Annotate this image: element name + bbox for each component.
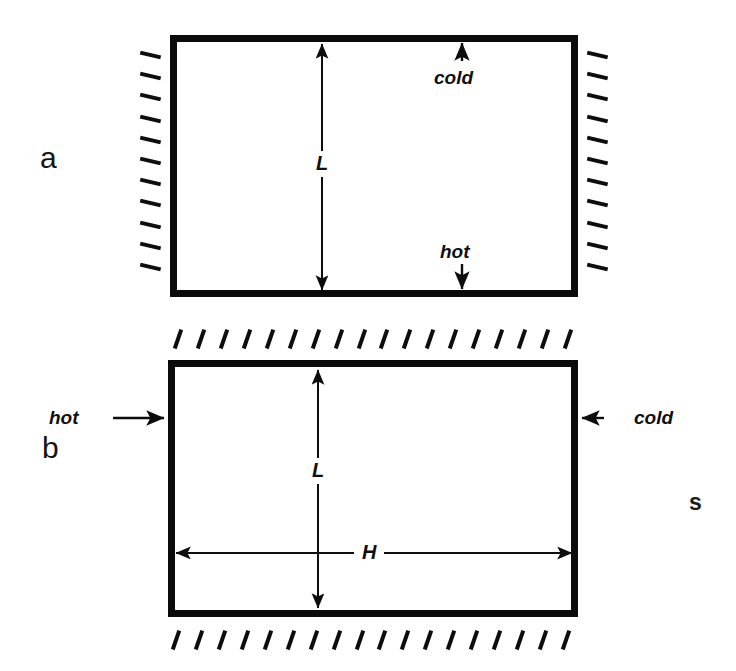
hatch-mark [219, 329, 229, 349]
hatch-mark [288, 329, 298, 349]
hatch-mark [446, 630, 456, 650]
hatch-mark [377, 630, 387, 650]
hatch-mark [140, 178, 161, 186]
hatch-mark [587, 263, 608, 271]
hatch-mark [494, 329, 504, 349]
thermal-label-cold-a: cold [434, 68, 473, 87]
enclosure-box-b [168, 360, 578, 617]
thermal-label-hot-a: hot [440, 242, 470, 261]
hatch-mark [492, 630, 502, 650]
hatch-mark [140, 220, 161, 228]
dimension-label-L-b: L [312, 460, 324, 480]
hatch-mark [331, 630, 341, 650]
hatch-mark [242, 329, 252, 349]
hatch-mark [379, 329, 389, 349]
hatch-mark [286, 630, 296, 650]
hatch-mark [538, 630, 548, 650]
hatch-mark [310, 329, 320, 349]
hatch-mark [140, 135, 161, 143]
enclosure-box-a [170, 35, 578, 297]
hatch-mark [587, 135, 608, 143]
hatch-mark [140, 157, 161, 165]
hatch-mark [517, 329, 527, 349]
hatch-mark [587, 199, 608, 207]
hatch-mark [140, 51, 161, 59]
hatch-mark [425, 329, 435, 349]
hatch-mark [563, 329, 573, 349]
hatch-mark [587, 114, 608, 122]
hatch-mark [140, 263, 161, 271]
hatch-mark [217, 630, 227, 650]
hatch-mark [140, 199, 161, 207]
dimension-label-H-b: H [362, 542, 376, 562]
hatch-mark [423, 630, 433, 650]
hatch-mark [400, 630, 410, 650]
figure-canvas: cold hot L a hot cold L H b s [0, 0, 736, 671]
hatch-mark [515, 630, 525, 650]
thermal-label-hot-b: hot [49, 408, 79, 427]
hatch-mark [196, 329, 206, 349]
hatch-mark [140, 72, 161, 80]
hatch-mark [448, 329, 458, 349]
hatch-mark [354, 630, 364, 650]
hatch-mark [540, 329, 550, 349]
hatch-mark [308, 630, 318, 650]
hatch-mark [171, 630, 181, 650]
hatch-mark [471, 329, 481, 349]
hatch-mark [140, 93, 161, 101]
panel-letter-b: b [42, 433, 59, 463]
hatch-mark [561, 630, 571, 650]
thermal-label-cold-b: cold [634, 408, 673, 427]
hatch-mark [587, 220, 608, 228]
hatch-mark [240, 630, 250, 650]
margin-glyph: s [689, 491, 702, 514]
hatch-mark [587, 178, 608, 186]
hatch-mark [356, 329, 366, 349]
panel-letter-a: a [40, 143, 57, 173]
hatch-mark [263, 630, 273, 650]
hatch-mark [173, 329, 183, 349]
dimension-label-L-a: L [316, 153, 328, 173]
hatch-mark [587, 72, 608, 80]
hatch-mark [587, 51, 608, 59]
hatch-mark [587, 93, 608, 101]
hatch-mark [469, 630, 479, 650]
hatch-mark [587, 241, 608, 249]
hatch-mark [140, 114, 161, 122]
hatch-mark [265, 329, 275, 349]
hatch-mark [587, 157, 608, 165]
hatch-mark [194, 630, 204, 650]
hatch-mark [333, 329, 343, 349]
hatch-mark [140, 241, 161, 249]
hatch-mark [402, 329, 412, 349]
